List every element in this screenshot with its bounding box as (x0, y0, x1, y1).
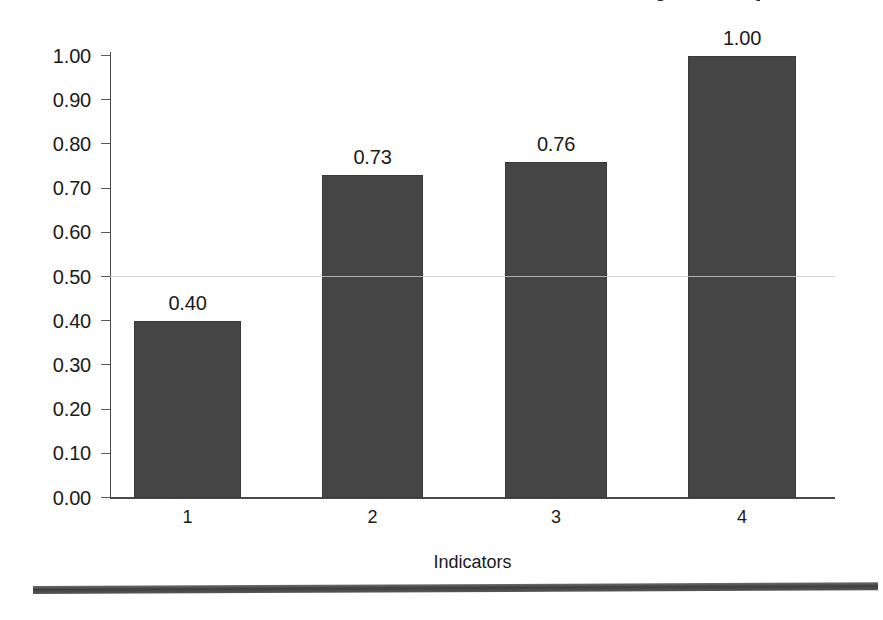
y-axis-tick-label: 0.50 (53, 265, 91, 288)
bar-value-label: 0.40 (168, 292, 206, 315)
plot-area: 0.000.100.200.300.400.500.600.700.800.90… (110, 56, 835, 498)
y-axis-tick-label: 0.20 (53, 398, 91, 421)
x-axis-category-label: 3 (551, 507, 561, 528)
y-axis-tick-label: 0.40 (53, 309, 91, 332)
clipped-title-fragment: Figure heading (640, 0, 760, 5)
bar-value-label: 0.73 (353, 146, 391, 169)
bar: 0.732 (322, 175, 423, 498)
x-axis-title: Indicators (110, 552, 835, 573)
bar: 0.401 (134, 321, 241, 498)
y-axis-tick-label: 0.30 (53, 353, 91, 376)
y-axis-tick-label: 0.80 (53, 132, 91, 155)
y-axis-tick-label: 0.70 (53, 177, 91, 200)
bar-chart-figure: Figure heading 0.000.100.200.300.400.500… (0, 0, 883, 620)
y-axis-tick: 0.10 (101, 453, 110, 454)
y-axis-tick: 0.90 (101, 99, 110, 100)
y-axis-tick-label: 0.60 (53, 221, 91, 244)
y-axis-tick-label: 0.90 (53, 88, 91, 111)
y-axis-tick: 0.60 (101, 232, 110, 233)
page-divider-rule (33, 582, 878, 594)
y-axis-tick: 0.50 (101, 276, 110, 277)
y-axis-tick: 0.30 (101, 364, 110, 365)
bar-value-label: 0.76 (537, 133, 575, 156)
x-axis-category-label: 1 (182, 507, 192, 528)
y-axis-tick: 0.20 (101, 409, 110, 410)
bar: 1.004 (688, 56, 796, 498)
y-axis-tick: 0.00 (101, 497, 110, 498)
y-axis-tick: 0.80 (101, 143, 110, 144)
bar: 0.763 (505, 162, 607, 498)
x-axis-category-label: 4 (737, 507, 747, 528)
y-axis-tick-label: 0.10 (53, 442, 91, 465)
y-axis-tick: 1.00 (101, 55, 110, 56)
y-axis-tick-label: 1.00 (53, 44, 91, 67)
y-axis-tick: 0.70 (101, 188, 110, 189)
bar-value-label: 1.00 (723, 27, 761, 50)
gridline (110, 276, 835, 277)
x-axis-category-label: 2 (367, 507, 377, 528)
y-axis-tick-label: 0.00 (53, 486, 91, 509)
y-axis-tick: 0.40 (101, 320, 110, 321)
y-axis-line (110, 52, 111, 498)
